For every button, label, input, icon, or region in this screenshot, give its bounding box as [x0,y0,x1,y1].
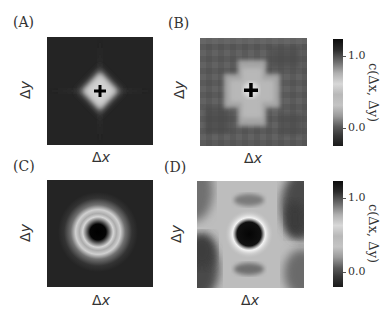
heatmap-a [47,37,153,145]
ylabel-c: Δy [17,224,33,242]
ylabel-d: Δy [168,225,184,243]
colorbar-top [333,39,343,146]
panel-label-c: (C) [13,158,35,174]
ylabel-d-delta: Δ [168,233,184,243]
xlabel-d-delta: Δ [241,292,251,308]
colorbar-bottom-tick-label-1: 1.0 [348,191,366,204]
colorbar-bottom-tick-1 [343,198,346,199]
colorbar-top-label: c(Δx, Δy) [366,56,381,130]
xlabel-c-var: x [102,292,110,308]
xlabel-b-var: x [254,150,262,166]
ylabel-b-var: y [171,81,187,89]
xlabel-a-delta: Δ [92,149,102,165]
ylabel-c-delta: Δ [17,232,33,242]
xlabel-a-var: x [102,149,110,165]
colorbar-bottom-tick-0 [343,272,346,273]
ylabel-a-delta: Δ [17,89,33,99]
heatmap-d [197,181,304,288]
xlabel-d-var: x [251,292,259,308]
colorbar-bottom [333,181,343,287]
xlabel-b: Δx [244,150,262,166]
colorbar-top-tick-label-1: 1.0 [348,49,366,62]
ylabel-b: Δy [171,81,187,99]
ylabel-c-var: y [17,224,33,232]
ylabel-d-var: y [168,225,184,233]
heatmap-b [200,38,307,146]
xlabel-d: Δx [241,292,259,308]
ylabel-b-delta: Δ [171,89,187,99]
colorbar-top-tick-1 [343,56,346,57]
panel-label-d: (D) [164,159,186,175]
xlabel-c-delta: Δ [92,292,102,308]
xlabel-c: Δx [92,292,110,308]
colorbar-bottom-label: c(Δx, Δy) [366,197,381,271]
colorbar-top-tick-label-0: 0.0 [348,121,366,134]
xlabel-a: Δx [92,149,110,165]
xlabel-b-delta: Δ [244,150,254,166]
heatmap-c [47,180,153,287]
ylabel-a: Δy [17,81,33,99]
panel-label-a: (A) [13,14,34,30]
colorbar-top-tick-0 [343,128,346,129]
ylabel-a-var: y [17,81,33,89]
colorbar-bottom-tick-label-0: 0.0 [348,265,366,278]
panel-label-b: (B) [168,15,189,31]
